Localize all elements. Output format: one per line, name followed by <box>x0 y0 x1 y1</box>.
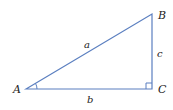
vertex-label-b: B <box>157 9 166 22</box>
angle-a-marker <box>36 83 38 89</box>
side-label-c: c <box>157 48 163 59</box>
right-triangle-diagram: A B C a b c <box>0 0 173 110</box>
side-label-a: a <box>84 39 90 50</box>
right-angle-marker <box>146 83 152 89</box>
triangle-shape <box>26 14 152 89</box>
vertex-label-a: A <box>12 83 21 96</box>
side-label-b: b <box>87 94 93 105</box>
vertex-label-c: C <box>158 83 167 96</box>
